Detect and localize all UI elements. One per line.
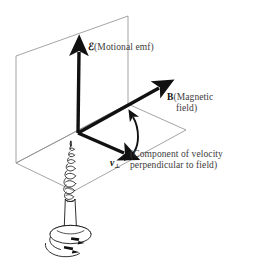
emf-label: ℰ(Motional emf) — [88, 42, 154, 53]
velocity-label: v⊥ — [110, 158, 120, 169]
emf-axis-arrow — [78, 52, 79, 133]
velocity-description-line2: perpendicular to field) — [130, 160, 223, 171]
velocity-subscript: ⊥ — [114, 162, 120, 169]
magnetic-field-description-line2: field) — [176, 103, 213, 114]
screw-illustration — [45, 141, 91, 257]
magnetic-field-description-line1: (Magnetic — [173, 92, 213, 102]
velocity-description: (Component of velocity perpendicular to … — [130, 149, 223, 170]
velocity-axis-arrow — [78, 133, 124, 153]
horizontal-plane — [16, 104, 186, 191]
motional-emf-figure: ℰ(Motional emf) B(Magnetic field) v⊥ (Co… — [0, 0, 266, 268]
magnetic-field-axis-arrow — [78, 88, 159, 133]
emf-description: (Motional emf) — [94, 42, 154, 52]
magnetic-field-label: B(Magnetic field) — [167, 92, 213, 113]
figure-canvas — [0, 0, 266, 268]
velocity-description-line1: (Component of velocity — [130, 149, 223, 160]
axis-vectors — [78, 52, 159, 153]
screw-head — [50, 225, 91, 243]
vertical-plane — [16, 16, 128, 163]
